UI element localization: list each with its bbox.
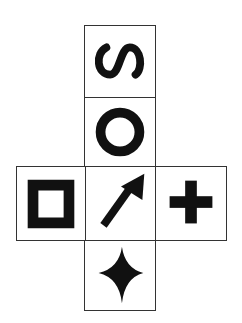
face-center: arrow pointing up-right bbox=[85, 166, 156, 241]
ring-icon bbox=[85, 98, 155, 166]
face-left: square outline bbox=[16, 166, 86, 241]
arrow-up-right-icon bbox=[86, 167, 155, 240]
face-bottom: four-pointed star bbox=[84, 240, 156, 311]
face-top: S bbox=[84, 25, 156, 98]
letter-s-rotated-icon bbox=[85, 26, 155, 97]
face-right: + bbox=[155, 166, 227, 241]
four-point-star-icon bbox=[85, 241, 155, 310]
face-upper-middle: O bbox=[84, 97, 156, 167]
plus-icon bbox=[156, 167, 226, 240]
hollow-square-icon bbox=[17, 167, 85, 240]
